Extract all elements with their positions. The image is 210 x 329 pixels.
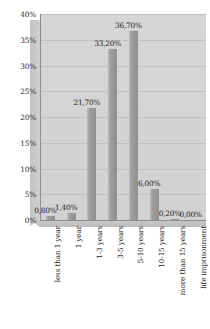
bar-group: 0,80% <box>40 14 60 220</box>
bar-group: 6,00% <box>144 14 164 220</box>
bar <box>87 107 96 220</box>
bar <box>46 215 55 220</box>
x-axis-category-label: more than 15 years <box>178 226 187 326</box>
y-axis-tick-label: 15% <box>20 138 36 147</box>
bar-group: 1,40% <box>61 14 81 220</box>
bar-group: 0,00% <box>186 14 206 220</box>
bar-group: 0,20% <box>165 14 185 220</box>
x-axis-category-label: 1 year <box>74 226 83 326</box>
y-axis-tick-label: 20% <box>20 113 36 122</box>
bar-group: 36,70% <box>123 14 143 220</box>
y-axis-tick-label: 5% <box>25 190 36 199</box>
x-axis-category-label: 10-15 years <box>157 226 166 326</box>
bar-group: 33,20% <box>103 14 123 220</box>
x-axis-category-label: 1-3 years <box>95 226 104 326</box>
x-axis-category-label: life imprisonment <box>199 226 208 326</box>
bar <box>129 30 138 220</box>
x-axis-line <box>40 220 206 221</box>
y-axis-tick-label: 40% <box>20 10 36 19</box>
bar <box>108 48 117 220</box>
x-axis-category-label: less than 1 year <box>53 226 62 326</box>
bar-chart: 0%5%10%15%20%25%30%35%40% 0,80%1,40%21,7… <box>0 0 210 329</box>
x-axis-category-label: 3-5 years <box>116 226 125 326</box>
y-axis-tick-label: 25% <box>20 87 36 96</box>
y-axis-tick-label: 10% <box>20 164 36 173</box>
y-axis-tick-label: 30% <box>20 61 36 70</box>
bar <box>67 212 76 220</box>
y-axis-tick-label: 35% <box>20 35 36 44</box>
bar-value-label: 0,00% <box>168 210 210 219</box>
x-axis-category-label: 5-10 years <box>136 226 145 326</box>
y-axis-tick-label: 0% <box>25 216 36 225</box>
